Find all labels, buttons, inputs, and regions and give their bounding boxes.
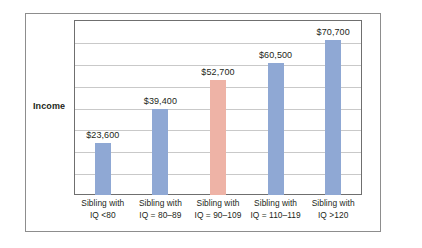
bar-value-label: $60,500 xyxy=(259,50,292,60)
bar-group: $70,700 xyxy=(304,20,362,195)
bar-value-label: $23,600 xyxy=(86,130,119,140)
bar[interactable] xyxy=(95,143,111,195)
bar-group: $60,500 xyxy=(247,20,305,195)
x-axis-tick-label: Sibling withIQ >120 xyxy=(304,198,362,221)
bar[interactable] xyxy=(152,109,168,195)
tick-label-line-1: Sibling with xyxy=(304,198,362,210)
bar-value-label: $52,700 xyxy=(201,67,234,77)
tick-label-line-1: Sibling with xyxy=(189,198,247,210)
x-axis-category-labels: Sibling withIQ <80Sibling withIQ = 80–89… xyxy=(74,198,362,228)
x-axis-tick-label: Sibling withIQ = 110–119 xyxy=(247,198,305,221)
chart-figure: Income $23,600$39,400$52,700$60,500$70,7… xyxy=(0,0,422,248)
bar-value-label: $70,700 xyxy=(317,27,350,37)
tick-label-line-2: IQ <80 xyxy=(74,210,132,222)
tick-label-line-2: IQ = 90–109 xyxy=(189,210,247,222)
tick-label-line-1: Sibling with xyxy=(74,198,132,210)
x-axis-tick-label: Sibling withIQ <80 xyxy=(74,198,132,221)
bar-value-label: $39,400 xyxy=(144,96,177,106)
bar-group: $52,700 xyxy=(189,20,247,195)
bar-group: $39,400 xyxy=(132,20,190,195)
y-axis-title: Income xyxy=(33,101,65,111)
bars-layer: $23,600$39,400$52,700$60,500$70,700 xyxy=(74,20,362,195)
tick-label-line-2: IQ = 80–89 xyxy=(132,210,190,222)
bar[interactable] xyxy=(325,40,341,195)
x-axis-tick-label: Sibling withIQ = 90–109 xyxy=(189,198,247,221)
tick-label-line-1: Sibling with xyxy=(132,198,190,210)
tick-label-line-2: IQ = 110–119 xyxy=(247,210,305,222)
bar[interactable] xyxy=(268,63,284,195)
bar-group: $23,600 xyxy=(74,20,132,195)
tick-label-line-1: Sibling with xyxy=(247,198,305,210)
bar[interactable] xyxy=(210,80,226,195)
tick-label-line-2: IQ >120 xyxy=(304,210,362,222)
x-axis-tick-label: Sibling withIQ = 80–89 xyxy=(132,198,190,221)
